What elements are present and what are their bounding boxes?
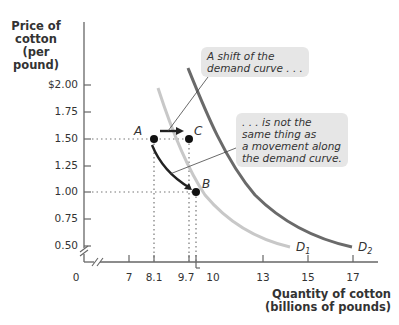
- point-c-label: C: [194, 124, 202, 138]
- y-tick-label: 1.75: [38, 105, 78, 117]
- callout-move-line2: same thing as: [242, 128, 342, 140]
- y-tick-label: 0.50: [38, 239, 78, 251]
- curve-d2-label: D2: [358, 240, 372, 256]
- callout-move-line3: a movement along: [242, 140, 342, 152]
- y-tick-label: 1.00: [38, 185, 78, 197]
- point-b-label: B: [202, 177, 210, 191]
- point-c: [185, 135, 193, 143]
- demand-curve-d1: [158, 88, 290, 247]
- x-tick-label: 10: [198, 271, 228, 283]
- point-b: [192, 188, 200, 196]
- y-tick-label: 0.75: [38, 212, 78, 224]
- x-tick-label: 8.1: [139, 271, 169, 283]
- y-tick-label: 1.50: [38, 132, 78, 144]
- x-axis-label: Quantity of cotton (billions of pounds): [265, 288, 391, 314]
- movement-arrow: [152, 145, 190, 188]
- callout-shift-line1: A shift of the: [207, 50, 303, 62]
- callout-move-line4: the demand curve.: [242, 152, 342, 164]
- callout-shift: A shift of the demand curve . . .: [201, 47, 309, 77]
- curve-d1-label: D1: [296, 240, 310, 256]
- y-ticks: [84, 85, 91, 246]
- y-tick-label: 1.25: [38, 159, 78, 171]
- x-tick-label: 17: [338, 271, 368, 283]
- x-axis-label-line2: (billions of pounds): [265, 301, 391, 314]
- y-tick-label: $2.00: [38, 78, 78, 90]
- x-tick-label: 9.7: [171, 271, 201, 283]
- guide-lines: [92, 139, 196, 262]
- x-tick-label: 0: [61, 271, 91, 283]
- callout-shift-line2: demand curve . . .: [207, 62, 303, 74]
- point-a: [150, 135, 158, 143]
- x-tick-label: 13: [248, 271, 278, 283]
- y-axis-label-line3: (per pound): [4, 46, 68, 72]
- callout-move: . . . is not the same thing as a movemen…: [236, 113, 348, 167]
- callout-move-leader: [170, 148, 236, 174]
- x-tick-label: 15: [293, 271, 323, 283]
- callout-move-line1: . . . is not the: [242, 116, 342, 128]
- point-a-label: A: [134, 124, 142, 138]
- shift-arrowhead-icon: [176, 127, 184, 135]
- y-axis-label: Price of cotton (per pound): [4, 20, 68, 72]
